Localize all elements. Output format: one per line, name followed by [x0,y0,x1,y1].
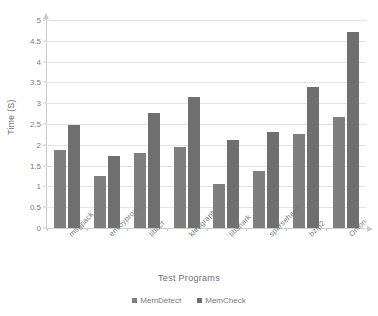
x-label-cell: kleograph [167,229,207,271]
y-tick-mark [43,228,46,229]
y-tick-label: 1.5 [30,161,41,170]
y-tick-label: 1 [37,182,41,191]
y-tick-label: 3.5 [30,78,41,87]
bar-memcheck-sparsehash[interactable] [267,132,279,229]
bar-memdetect-libsnark[interactable] [213,184,225,229]
bar-group [127,20,167,228]
y-tick-label: 0 [37,224,41,233]
bar-group [207,20,247,228]
legend-label: MemCheck [205,296,245,305]
bar-memcheck-msgpack[interactable] [68,125,80,228]
y-tick-mark [43,61,46,62]
x-label-cell: Onion [327,229,367,271]
bar-memcheck-bzip2[interactable] [307,87,319,228]
x-axis-title: Test Programs [0,273,378,283]
y-tick-mark [43,207,46,208]
y-tick-mark [43,144,46,145]
x-label-cell: sparsehash [247,229,287,271]
y-tick-label: 2.5 [30,120,41,129]
y-tick-label: 4 [37,57,41,66]
legend-label: MemDetect [140,296,181,305]
x-label-cell: bzip2 [287,229,327,271]
y-tick-label: 2 [37,140,41,149]
y-tick-mark [43,186,46,187]
y-tick-label: 0.5 [30,203,41,212]
y-tick-label: 4.5 [30,36,41,45]
bar-memdetect-libdct[interactable] [134,153,146,228]
x-axis-labels: msgpackenvoyproxylibdctkleographlibsnark… [47,229,367,271]
bar-memdetect-kleograph[interactable] [174,147,186,228]
bar-group [87,20,127,228]
bar-group [286,20,326,228]
bar-memdetect-msgpack[interactable] [54,150,66,228]
plot-area: 54.543.532.521.510.50 [46,20,366,228]
bar-memcheck-libdct[interactable] [148,113,160,228]
bar-group [167,20,207,228]
chart-legend: MemDetectMemCheck [0,296,378,305]
legend-swatch-icon [132,298,137,303]
bar-memcheck-libsnark[interactable] [227,140,239,228]
bar-memcheck-kleograph[interactable] [188,97,200,228]
y-axis-title: Time (S) [6,82,16,152]
x-label-cell: libdct [127,229,167,271]
y-tick-mark [43,40,46,41]
bar-memdetect-sparsehash[interactable] [253,171,265,228]
bar-chart: Time (S) 54.543.532.521.510.50 msgpacken… [0,0,378,316]
bar-memdetect-onion[interactable] [333,117,345,228]
bar-group [246,20,286,228]
bar-memdetect-envoyproxy[interactable] [94,176,106,228]
legend-item-memcheck[interactable]: MemCheck [197,296,245,305]
bar-memcheck-envoyproxy[interactable] [108,156,120,228]
x-label-cell: envoyproxy [87,229,127,271]
bar-memcheck-onion[interactable] [347,32,359,228]
y-tick-mark [43,82,46,83]
y-tick-mark [43,124,46,125]
y-tick-mark [43,103,46,104]
y-tick-mark [43,165,46,166]
x-label-cell: msgpack [47,229,87,271]
x-axis-arrow-icon [367,226,373,232]
y-axis-arrow-icon [43,13,49,19]
x-label-cell: libsnark [207,229,247,271]
y-tick-label: 3 [37,99,41,108]
bar-group [47,20,87,228]
y-tick-label: 5 [37,16,41,25]
bar-group [326,20,366,228]
legend-swatch-icon [197,298,202,303]
bar-groups [47,20,366,228]
legend-item-memdetect[interactable]: MemDetect [132,296,181,305]
y-tick-mark [43,20,46,21]
